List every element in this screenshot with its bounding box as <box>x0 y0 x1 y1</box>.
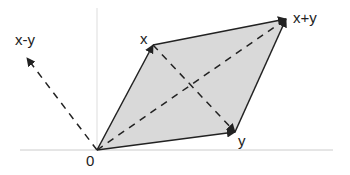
label-y: y <box>238 132 246 149</box>
label-x: x <box>140 30 148 47</box>
label-sum: x+y <box>293 9 317 26</box>
vector-parallelogram-diagram: 0 x y x+y x-y <box>0 0 350 175</box>
difference-vector-dashed <box>27 58 97 150</box>
label-difference: x-y <box>15 31 35 48</box>
label-origin: 0 <box>86 152 94 169</box>
